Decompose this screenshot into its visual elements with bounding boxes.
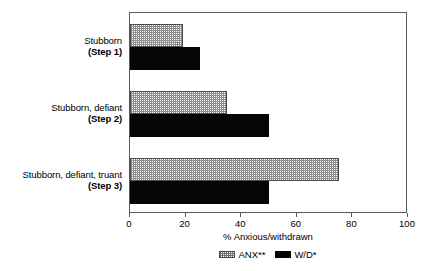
category-step: (Step 2) [51, 113, 122, 124]
category-axis-labels: Stubborn (Step 1) Stubborn, defiant (Ste… [0, 12, 126, 213]
category-step: (Step 1) [84, 46, 122, 57]
hatched-swatch-icon [219, 251, 235, 258]
category-name: Stubborn [84, 35, 122, 46]
category-label-step-2: Stubborn, defiant (Step 2) [51, 102, 122, 124]
category-name: Stubborn, defiant, truant [23, 169, 122, 180]
solid-black-swatch-icon [275, 251, 291, 258]
x-tick-100 [407, 213, 408, 217]
x-tick-label-0: 0 [109, 218, 149, 230]
bar-anx-step-1 [130, 24, 183, 47]
x-tick-20 [185, 213, 186, 217]
plot-area [129, 12, 407, 213]
x-tick-label-80: 80 [331, 218, 371, 230]
x-tick-60 [296, 213, 297, 217]
bars-container [130, 13, 406, 212]
category-name: Stubborn, defiant [51, 102, 122, 113]
bar-wd-step-3 [130, 181, 269, 204]
x-tick-80 [351, 213, 352, 217]
legend-entry-anx: ANX** [219, 249, 265, 260]
legend-label-anx: ANX** [238, 249, 265, 260]
category-label-step-3: Stubborn, defiant, truant (Step 3) [23, 169, 122, 191]
legend-entry-wd: W/D* [275, 249, 316, 260]
x-tick-label-100: 100 [387, 218, 425, 230]
chart-legend: ANX** W/D* [129, 249, 407, 260]
category-label-step-1: Stubborn (Step 1) [84, 35, 122, 57]
bar-anx-step-3 [130, 158, 339, 181]
bar-wd-step-1 [130, 47, 200, 70]
x-tick-label-40: 40 [220, 218, 260, 230]
x-tick-0 [129, 213, 130, 217]
x-tick-40 [240, 213, 241, 217]
category-step: (Step 3) [23, 180, 122, 191]
x-tick-label-60: 60 [276, 218, 316, 230]
x-axis-label: % Anxious/withdrawn [129, 231, 407, 243]
bar-anx-step-2 [130, 91, 227, 114]
bar-wd-step-2 [130, 114, 269, 137]
legend-label-wd: W/D* [294, 249, 316, 260]
bar-chart-figure: Stubborn (Step 1) Stubborn, defiant (Ste… [0, 0, 425, 271]
x-tick-label-20: 20 [165, 218, 205, 230]
